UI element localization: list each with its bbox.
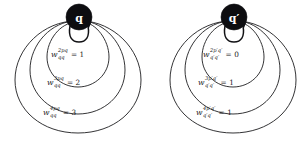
weight-symbol: w	[196, 108, 203, 117]
loop-curve-left-3	[15, 21, 141, 133]
weight-value: 1	[227, 108, 232, 117]
weight-equals: = 0	[225, 50, 238, 59]
weight-scripts: 4p′q′q′q′	[203, 108, 216, 119]
loop-curve-right-3	[170, 21, 296, 133]
weight-equals: = 1	[71, 50, 84, 59]
weight-label-right-1: w2p′q′q′q′= 0	[203, 50, 239, 61]
weight-symbol: w	[198, 78, 205, 87]
weight-superscript: 2p′q′	[210, 48, 223, 53]
weight-value: 3	[72, 108, 77, 117]
weight-symbol: w	[43, 108, 50, 117]
weight-equals: = 3	[63, 108, 76, 117]
weight-label-left-1: w2pqqq= 1	[51, 50, 84, 61]
weight-value: 0	[234, 50, 239, 59]
loop-curve-left-2	[30, 21, 125, 114]
weight-scripts: 3pqqq	[54, 78, 64, 89]
weight-superscript: 4p′q′	[203, 106, 216, 111]
weight-superscript: 4pq	[50, 106, 60, 111]
weight-superscript: 3pq	[54, 76, 64, 81]
weight-value: 2	[76, 78, 81, 87]
weight-scripts: 3p′q′q′q′	[205, 78, 218, 89]
weight-superscript: 2pq	[58, 48, 68, 53]
panel-right: q′	[170, 4, 296, 133]
weight-label-left-2: w3pqqq= 2	[47, 78, 80, 89]
weight-label-right-2: w3p′q′q′q′= 1	[198, 78, 234, 89]
weight-label-left-3: w4pqqq= 3	[43, 108, 76, 119]
self-loop-diagram: q q′	[0, 0, 308, 143]
panel-left: q	[15, 4, 141, 133]
weight-subscript: qq	[54, 83, 64, 88]
loop-curve-right-2	[185, 21, 280, 114]
weight-subscript: q′q′	[203, 113, 216, 118]
weight-subscript: q′q′	[210, 55, 223, 60]
weight-equals: = 2	[67, 78, 80, 87]
weight-value: 1	[229, 78, 234, 87]
node-q-prime-label: q′	[229, 12, 240, 25]
node-q-label: q	[75, 12, 83, 25]
weight-subscript: qq	[58, 55, 68, 60]
weight-scripts: 4pqqq	[50, 108, 60, 119]
weight-label-right-3: w4p′q′q′q′= 1	[196, 108, 232, 119]
weight-subscript: q′q′	[205, 83, 218, 88]
weight-scripts: 2pqqq	[58, 50, 68, 61]
weight-value: 1	[80, 50, 85, 59]
weight-superscript: 3p′q′	[205, 76, 218, 81]
weight-equals: = 1	[220, 78, 233, 87]
weight-equals: = 1	[218, 108, 231, 117]
weight-symbol: w	[47, 78, 54, 87]
weight-symbol: w	[203, 50, 210, 59]
weight-symbol: w	[51, 50, 58, 59]
weight-subscript: qq	[50, 113, 60, 118]
weight-scripts: 2p′q′q′q′	[210, 50, 223, 61]
